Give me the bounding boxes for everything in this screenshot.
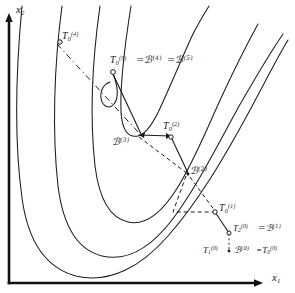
label-B-3: ℬ(3) [112,137,129,147]
x-axis-arrowhead [254,279,263,286]
label-eq-B-5: =ℬ(5) [167,55,193,65]
label-eq-B-4: =ℬ(4) [136,55,162,65]
label-T2-0: T2(0) [233,224,248,234]
segment-dashed-B2-right-angle [173,176,214,212]
contour-curve-third [92,6,258,223]
point-marker-group [58,40,231,235]
search-path-dashed-group [57,44,229,250]
segment-dashed-T04-diag [57,44,139,133]
segment-solid-T03-to-B3 [113,74,141,134]
label-T0-2: T0(2) [163,121,179,132]
label-T0-3: T0(3) [110,55,126,66]
label-T0-4: T0(4) [62,31,78,42]
segment-solid-T01-to-T20 [215,212,229,233]
label-T1-0: T1(0) [203,246,218,256]
label-B-0: ℬ(0) [234,246,249,255]
label-eq-B-1: =ℬ(1) [258,224,281,233]
y-axis-label: x2 [16,4,25,16]
point-T0-1 [213,210,217,214]
segment-dashed-B2-to-T01 [190,177,215,211]
figure-canvas [0,0,295,293]
search-path-solid-group [113,74,229,233]
point-T2-0 [227,231,231,235]
contour-curve-inner [121,6,209,136]
point-T1-0-dot [228,250,231,253]
contour-search-path-figure: x2 x1 T0(4) T0(3) =ℬ(4) =ℬ(5) ℬ(3) T0(2)… [0,0,295,293]
y-axis-arrowhead [5,13,12,22]
label-T0-1: T0(1) [219,203,235,214]
label-eq-T0-0: =T0(0) [256,246,277,256]
axes-group [5,13,263,287]
label-B-2: ℬ(2) [190,166,207,176]
x-axis-label: x1 [272,272,281,284]
point-T0-3 [111,70,116,75]
point-T0-2 [169,135,173,139]
contour-curve-group [17,6,288,278]
segment-dashed-T02-to-B2 [139,137,188,174]
